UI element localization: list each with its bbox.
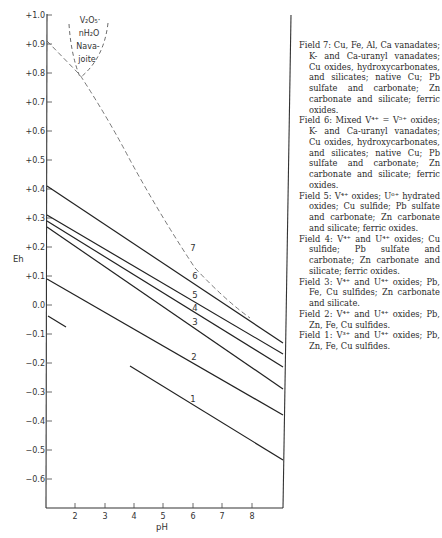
- svg-text:+0.5: +0.5: [26, 156, 45, 165]
- y-axis-title: Eh: [13, 254, 24, 264]
- legend-field-5: Field 5: V⁴⁺ oxides; U⁶⁺ hydrated oxides…: [299, 191, 440, 234]
- svg-text:+0.2: +0.2: [26, 243, 45, 252]
- svg-text:−0.5: −0.5: [26, 446, 45, 455]
- svg-text:5: 5: [192, 290, 197, 300]
- svg-text:V₂O₅·: V₂O₅·: [80, 16, 101, 25]
- svg-text:+0.9: +0.9: [26, 40, 45, 49]
- legend-field-4: Field 4: V⁴⁺ and U⁴⁺ oxides; Cu sulfide;…: [299, 234, 440, 277]
- svg-text:6: 6: [190, 512, 195, 521]
- legend-field-7: Field 7: Cu, Fe, Al, Ca vanadates; K- an…: [299, 40, 440, 115]
- svg-text:5: 5: [160, 512, 165, 521]
- x-tick-labels: 2 3 4 5 6 7 8: [72, 512, 254, 521]
- svg-text:1: 1: [190, 394, 195, 404]
- plot-frame: [46, 14, 291, 508]
- svg-text:Nava-: Nava-: [76, 42, 100, 51]
- svg-text:4: 4: [192, 303, 197, 313]
- svg-text:8: 8: [249, 512, 254, 521]
- x-ticks: [75, 503, 252, 508]
- navajoite-label: V₂O₅· nH₂O Nava- joite: [76, 16, 100, 64]
- x-axis-title: pH: [156, 522, 168, 532]
- svg-text:−0.2: −0.2: [26, 359, 45, 368]
- y-ticks: [47, 15, 52, 479]
- svg-text:+0.7: +0.7: [26, 98, 45, 107]
- svg-text:−0.6: −0.6: [26, 475, 45, 484]
- svg-text:+0.4: +0.4: [26, 185, 45, 194]
- svg-text:+0.3: +0.3: [26, 214, 45, 223]
- boundary-6: [47, 186, 283, 343]
- svg-text:−0.4: −0.4: [26, 417, 45, 426]
- svg-text:4: 4: [131, 512, 136, 521]
- svg-text:3: 3: [102, 512, 107, 521]
- y-axis: [46, 14, 47, 508]
- boundary-1: [130, 366, 283, 460]
- svg-text:7: 7: [190, 243, 195, 253]
- svg-text:+0.8: +0.8: [26, 69, 45, 78]
- boundary-short-segment: [48, 316, 66, 327]
- svg-text:joite: joite: [77, 55, 95, 64]
- right-border: [283, 15, 291, 508]
- legend-field-3: Field 3: V⁴⁺ and U⁴⁺ oxides; Pb, Fe, Cu …: [299, 277, 440, 309]
- boundary-2: [47, 279, 283, 415]
- svg-text:+1.0: +1.0: [26, 11, 45, 20]
- boundary-3: [47, 227, 283, 389]
- legend-field-2: Field 2: V⁴⁺ and U⁴⁺ oxides; Pb, Zn, Fe,…: [299, 309, 440, 331]
- svg-text:6: 6: [192, 271, 197, 281]
- legend-field-1: Field 1: V³⁺ and U⁴⁺ oxides; Pb, Zn, Fe,…: [299, 330, 440, 352]
- y-tick-labels: +1.0 +0.9 +0.8 +0.7 +0.6 +0.5 +0.4 +0.3 …: [26, 11, 45, 484]
- svg-text:3: 3: [192, 317, 197, 327]
- svg-text:2: 2: [72, 512, 77, 521]
- svg-text:−0.1: −0.1: [26, 330, 45, 339]
- legend-field-6: Field 6: Mixed V⁴⁺ = V⁵⁺ oxides; K- and …: [299, 115, 440, 190]
- svg-text:2: 2: [191, 352, 196, 362]
- boundary-4: [47, 221, 283, 367]
- field-legend: Field 7: Cu, Fe, Al, Ca vanadates; K- an…: [299, 40, 440, 352]
- svg-text:7: 7: [219, 512, 224, 521]
- boundary-5: [47, 215, 283, 354]
- svg-text:0.0: 0.0: [32, 301, 45, 310]
- line-labels: 7 6 5 4 3 2 1: [190, 243, 197, 404]
- svg-text:+0.6: +0.6: [26, 127, 45, 136]
- boundary-7-dashed: [47, 41, 250, 318]
- svg-text:nH₂O: nH₂O: [79, 29, 100, 38]
- boundary-lines: [47, 186, 283, 460]
- svg-text:+0.1: +0.1: [26, 272, 45, 281]
- svg-text:−0.3: −0.3: [26, 388, 45, 397]
